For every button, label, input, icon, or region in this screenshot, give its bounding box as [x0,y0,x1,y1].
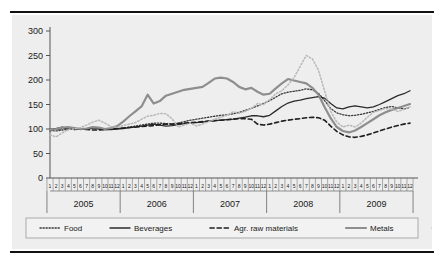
month-label: 10 [175,183,181,189]
month-label: 8 [165,183,168,189]
month-label: 4 [287,183,290,189]
month-label: 7 [232,183,235,189]
month-label: 10 [395,183,401,189]
month-label: 5 [366,183,369,189]
y-tick-label: 300 [28,26,43,36]
series-line-beverages [50,91,410,131]
series-line-metals [50,78,410,133]
month-label: 4 [67,183,70,189]
month-label: 4 [360,183,363,189]
year-label: 2006 [147,199,167,209]
y-axis-ticks [46,31,50,178]
month-label: 5 [219,183,222,189]
legend-label-agr-raw-materials: Agr. raw materials [234,224,298,233]
month-label: 8 [238,183,241,189]
month-label: 6 [152,183,155,189]
month-label: 5 [146,183,149,189]
month-label: 10 [102,183,108,189]
month-label: 3 [61,183,64,189]
month-label: 6 [299,183,302,189]
month-label: 2 [201,183,204,189]
top-divider-rule [10,11,434,13]
chart-panel: 050100150200250300 123456789101112123456… [12,15,432,249]
month-label: 6 [372,183,375,189]
month-label: 12 [407,183,413,189]
month-label: 4 [213,183,216,189]
series-line-agr-raw-materials [50,117,410,137]
series-line-energy [50,56,410,137]
month-label: 9 [390,183,393,189]
month-label: 6 [79,183,82,189]
legend-label-metals: Metals [370,224,394,233]
month-label: 3 [280,183,283,189]
y-tick-label: 250 [28,51,43,61]
month-label: 1 [195,183,198,189]
month-label: 2 [348,183,351,189]
month-label: 7 [85,183,88,189]
month-label: 8 [91,183,94,189]
month-label: 4 [140,183,143,189]
month-label: 9 [244,183,247,189]
month-label: 9 [171,183,174,189]
month-label: 7 [378,183,381,189]
month-label: 8 [384,183,387,189]
chart-series-group [50,56,410,138]
y-tick-label: 100 [28,124,43,134]
month-label: 2 [128,183,131,189]
month-label: 11 [328,183,333,189]
month-label: 2 [274,183,277,189]
month-label: 12 [188,183,194,189]
y-axis-tick-labels: 050100150200250300 [28,26,43,183]
series-line-food [50,89,410,131]
month-label: 10 [249,183,255,189]
month-label: 12 [334,183,340,189]
month-label: 7 [305,183,308,189]
month-label: 1 [49,183,52,189]
year-label: 2005 [74,199,94,209]
y-tick-label: 0 [38,173,43,183]
month-label: 10 [322,183,328,189]
y-tick-label: 150 [28,100,43,110]
legend-label-food: Food [64,224,82,233]
commodity-price-index-line-chart: 050100150200250300 123456789101112123456… [12,15,432,249]
month-label: 1 [122,183,125,189]
bottom-divider-rule [10,251,434,253]
month-label: 6 [226,183,229,189]
month-label: 11 [401,183,406,189]
month-label: 9 [97,183,100,189]
month-label: 12 [261,183,267,189]
y-tick-label: 200 [28,75,43,85]
month-label: 9 [317,183,320,189]
month-label: 12 [114,183,120,189]
month-label: 1 [268,183,271,189]
month-label: 3 [207,183,210,189]
month-label: 11 [182,183,187,189]
month-label: 2 [55,183,58,189]
y-tick-label: 50 [33,149,43,159]
month-label: 5 [73,183,76,189]
month-label: 11 [108,183,113,189]
year-label: 2008 [293,199,313,209]
chart-page: 050100150200250300 123456789101112123456… [0,0,444,266]
year-label: 2009 [366,199,386,209]
month-label: 3 [134,183,137,189]
month-label: 5 [293,183,296,189]
month-label: 11 [255,183,260,189]
month-label: 8 [311,183,314,189]
legend-label-beverages: Beverages [134,224,172,233]
month-label: 1 [341,183,344,189]
year-label: 2007 [220,199,240,209]
month-label: 7 [158,183,161,189]
month-label: 3 [354,183,357,189]
